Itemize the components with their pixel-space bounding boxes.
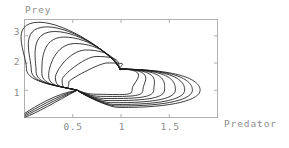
phase-portrait-figure: Prey Predator 3 2 1 0.5 1 1.5 [0, 0, 289, 148]
ytick-label-3: 3 [8, 27, 20, 37]
y-axis-title: Prey [25, 5, 51, 15]
ytick-label-2: 2 [8, 57, 20, 67]
xtick-label-0-5: 0.5 [53, 122, 93, 132]
xtick-label-1-5: 1.5 [150, 122, 190, 132]
xtick-label-1: 1 [102, 122, 142, 132]
ytick-label-1: 1 [8, 88, 20, 98]
x-axis-title: Predator [224, 119, 277, 129]
